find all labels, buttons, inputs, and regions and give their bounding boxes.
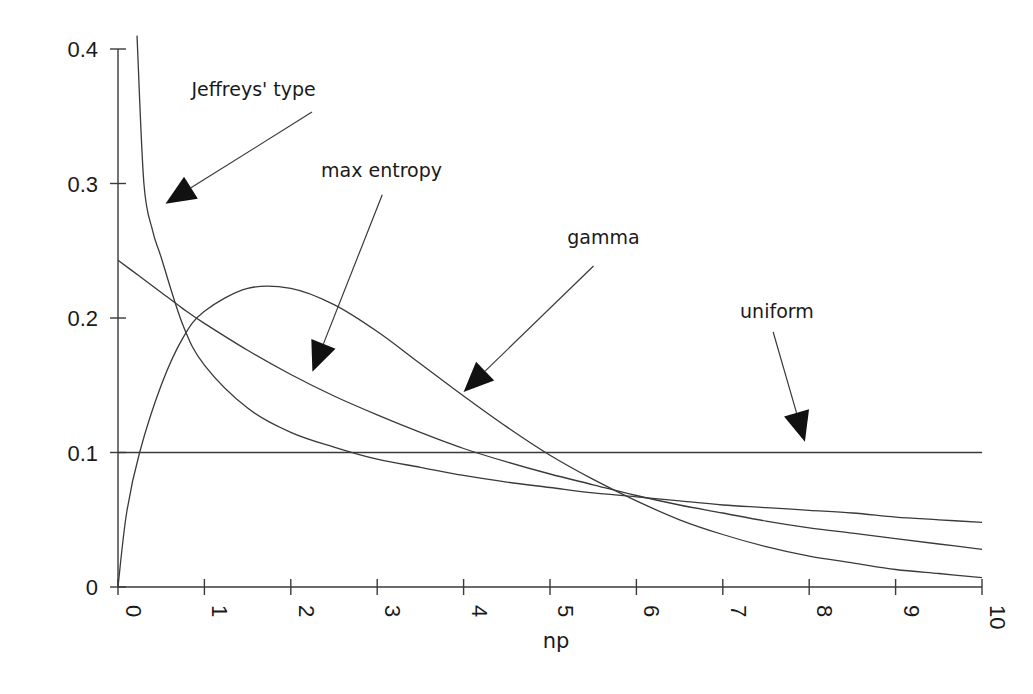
y-tick-label: 0 [86,575,98,600]
annotation-label-gamma: gamma [567,226,639,248]
x-tick-label: 5 [553,605,578,617]
x-axis-title: np [543,629,570,653]
y-tick-label: 0.1 [67,441,98,466]
curve-gamma [118,286,982,587]
annotation-arrow-line-jeffreys-type [191,112,312,188]
x-tick-label: 2 [294,605,319,617]
arrowhead-icon [166,177,198,204]
annotation-label-uniform: uniform [740,300,814,322]
x-tick-label: 9 [899,605,924,617]
axes: 00.10.20.30.4012345678910 [67,37,1010,629]
curve-max-entropy [118,260,982,549]
x-tick-label: 3 [380,605,405,617]
annotation-arrow-line-gamma [485,266,593,371]
line-chart: 00.10.20.30.4012345678910 Jeffreys' type… [0,0,1033,694]
y-tick-label: 0.4 [67,37,98,62]
curve-jeffreys-type [137,36,982,523]
annotation-arrow-line-uniform [773,332,796,413]
y-tick-label: 0.2 [67,306,98,331]
x-tick-label: 0 [121,605,146,617]
annotation-arrow-line-max-entropy [323,195,382,344]
curve-annotations: Jeffreys' typemax entropygammauniform [166,78,814,442]
y-tick-label: 0.3 [67,172,98,197]
x-tick-label: 10 [985,605,1010,629]
x-tick-label: 8 [812,605,837,617]
arrowhead-icon [311,339,335,372]
x-tick-label: 1 [207,605,232,617]
annotation-label-max-entropy: max entropy [321,159,442,181]
x-tick-label: 6 [639,605,664,617]
plot-curves [118,36,982,587]
annotation-label-jeffreys-type: Jeffreys' type [190,78,315,100]
x-tick-label: 7 [726,605,751,617]
arrowhead-icon [784,409,809,441]
x-tick-label: 4 [467,605,492,617]
